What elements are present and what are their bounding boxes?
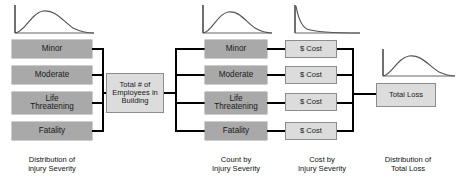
caption-count-by-injury-severity: Count by Injury Severity [198,155,274,174]
caption-distribution-of-injury-severity: Distribution of injury Severity [6,155,98,174]
distribution-curve [203,12,272,33]
chart-total-loss-distribution [378,48,456,80]
cost-box-2-label: $ Cost [300,71,322,79]
connector-bus-to-count-fatality [175,130,205,132]
distribution-curve [15,11,94,33]
caption-distribution-of-total-loss: Distribution of Total Loss [372,155,444,174]
caption-cost-line1: Cost by [284,155,360,164]
severity-box-life-threatening[interactable]: Life Threatening [12,92,92,114]
connector-cost-3-out [337,102,353,104]
connector-count-moderate-to-cost [267,74,285,76]
severity-box-life-threatening-label-line2: Threatening [30,103,74,111]
count-box-fatality-label: Fatality [223,127,249,135]
count-box-life-threatening[interactable]: Life Threatening [205,92,267,114]
connector-count-fanout-bus [175,48,177,132]
caption-total-loss-line2: Total Loss [372,164,444,173]
severity-box-fatality[interactable]: Fatality [12,122,92,140]
connector-cost-2-out [337,74,353,76]
total-loss-box[interactable]: Total Loss [376,83,436,107]
injury-severity-curve-svg [9,3,95,37]
connector-count-minor-to-cost [267,48,285,50]
severity-box-minor-label: Minor [42,45,62,53]
total-loss-curve-svg [378,48,456,80]
cost-box-1-label: $ Cost [300,45,322,53]
connector-cost-4-out [337,130,353,132]
connector-bus-to-count-life-threatening [175,102,205,104]
connector-count-life-threatening-to-cost [267,102,285,104]
distribution-curve [383,56,455,76]
connector-bus-to-total-loss [352,93,376,95]
cost-box-4-label: $ Cost [300,127,322,135]
caption-severity-line1: Distribution of [6,155,98,164]
severity-box-minor[interactable]: Minor [12,40,92,58]
diagram-canvas: Minor Moderate Life Threatening Fatality… [0,0,461,190]
count-distribution-curve-svg [197,3,273,37]
cost-box-4[interactable]: $ Cost [285,122,337,140]
caption-count-line2: Injury Severity [198,164,274,173]
chart-count-by-injury-severity-distribution [197,3,273,37]
chart-cost-by-injury-severity-distribution [289,3,361,37]
total-employees-box[interactable]: Total # of Employees in Building [106,73,164,113]
cost-box-3-label: $ Cost [300,98,322,106]
connector-cost-1-out [337,48,353,50]
connector-cost-bus [352,48,354,132]
distribution-curve [296,6,360,33]
severity-box-fatality-label: Fatality [39,127,65,135]
count-box-life-threatening-label-line2: Threatening [214,103,258,111]
chart-injury-severity-distribution [9,3,95,37]
count-box-minor[interactable]: Minor [205,40,267,58]
severity-box-moderate-label: Moderate [35,71,70,79]
caption-cost-line2: Injury Severity [284,164,360,173]
count-box-fatality[interactable]: Fatality [205,122,267,140]
connector-count-fatality-to-cost [267,130,285,132]
caption-cost-by-injury-severity: Cost by Injury Severity [284,155,360,174]
cost-box-2[interactable]: $ Cost [285,66,337,84]
count-box-minor-label: Minor [226,45,246,53]
cost-distribution-curve-svg [289,3,361,37]
severity-box-moderate[interactable]: Moderate [12,66,92,84]
caption-count-line1: Count by [198,155,274,164]
caption-total-loss-line1: Distribution of [372,155,444,164]
connector-bus-to-count-moderate [175,74,205,76]
cost-box-3[interactable]: $ Cost [285,93,337,111]
connector-severity-bus [102,48,104,132]
total-employees-label-line3: Building [121,97,148,105]
connector-bus-to-count-minor [175,48,205,50]
caption-severity-line2: injury Severity [6,164,98,173]
cost-box-1[interactable]: $ Cost [285,40,337,58]
total-loss-label: Total Loss [389,91,423,99]
count-box-moderate-label: Moderate [219,71,254,79]
count-box-moderate[interactable]: Moderate [205,66,267,84]
